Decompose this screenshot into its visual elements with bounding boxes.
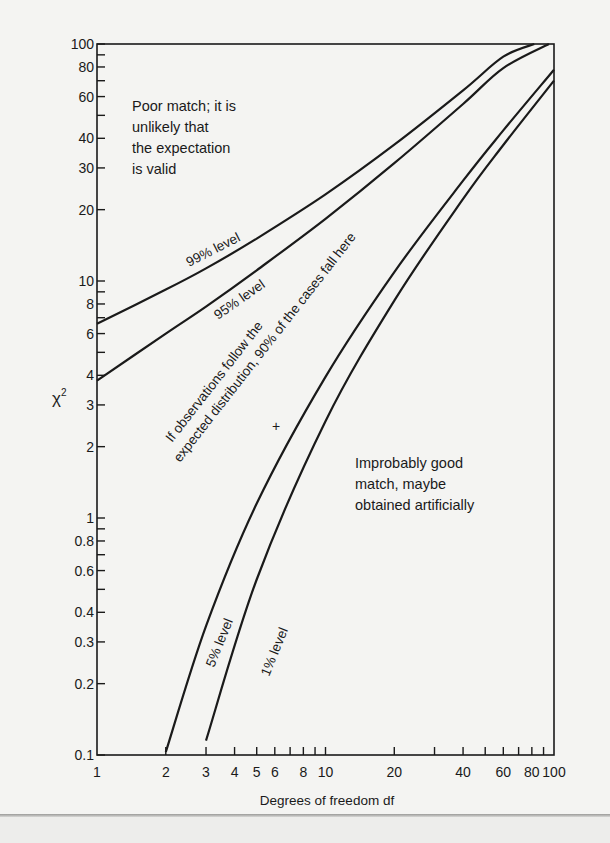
y-axis-label: χ2 [52, 387, 67, 408]
poor-match-annotation: Poor match; it is unlikely that the expe… [132, 98, 240, 177]
curve-1-percent [206, 81, 554, 741]
x-tick-label: 80 [524, 764, 540, 780]
x-tick-label: 5 [253, 764, 261, 780]
page-below-area [0, 817, 610, 843]
y-tick-label: 0.2 [75, 676, 95, 692]
good-match-annotation: Improbably good match, maybe obtained ar… [355, 455, 475, 513]
y-tick-label: 60 [78, 89, 94, 105]
curve-95-percent [97, 44, 549, 381]
y-tick-label: 0.6 [75, 563, 95, 579]
y-tick-label: 40 [78, 130, 94, 146]
y-tick-label: 30 [78, 160, 94, 176]
y-tick-label: 80 [78, 59, 94, 75]
chi-square-chart: 0.10.20.30.40.60.8123468102030406080100 … [0, 0, 610, 843]
y-tick-label: 2 [86, 439, 94, 455]
y-tick-label: 10 [78, 273, 94, 289]
x-tick-label: 2 [162, 764, 170, 780]
x-tick-label: 6 [271, 764, 279, 780]
y-tick-label: 4 [86, 367, 94, 383]
y-tick-label: 0.8 [75, 533, 95, 549]
y-axis-ticks: 0.10.20.30.40.60.8123468102030406080100 [71, 36, 105, 763]
x-tick-label: 8 [299, 764, 307, 780]
y-tick-label: 3 [86, 397, 94, 413]
x-axis-ticks: 12345681020406080100 [93, 747, 566, 780]
y-tick-label: 6 [86, 326, 94, 342]
curve-label-1: 1% level [258, 625, 291, 678]
y-tick-label: 100 [71, 36, 95, 52]
y-tick-label: 0.3 [75, 634, 95, 650]
x-tick-label: 1 [93, 764, 101, 780]
y-tick-label: 1 [86, 510, 94, 526]
x-tick-label: 60 [496, 764, 512, 780]
plus-marker: + [272, 418, 280, 434]
x-tick-label: 4 [231, 764, 239, 780]
x-tick-label: 3 [202, 764, 210, 780]
x-axis-label: Degrees of freedom df [260, 793, 395, 808]
x-tick-label: 40 [455, 764, 471, 780]
y-tick-label: 20 [78, 202, 94, 218]
y-tick-label: 8 [86, 296, 94, 312]
middle-annotation-line-1: If observations follow the [163, 319, 266, 445]
x-tick-label: 20 [386, 764, 402, 780]
x-tick-label: 10 [318, 764, 334, 780]
y-tick-label: 0.1 [75, 747, 95, 763]
y-tick-label: 0.4 [75, 604, 95, 620]
x-tick-label: 100 [542, 764, 566, 780]
